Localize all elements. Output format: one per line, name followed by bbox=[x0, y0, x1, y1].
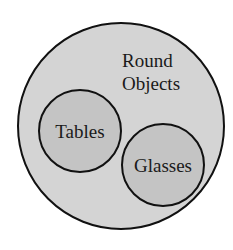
venn-diagram: Round Objects Tables Glasses bbox=[0, 0, 233, 250]
glasses-label: Glasses bbox=[134, 155, 192, 176]
outer-label-line2: Objects bbox=[122, 73, 180, 94]
outer-label-line1: Round bbox=[122, 50, 173, 71]
tables-label: Tables bbox=[55, 121, 104, 142]
